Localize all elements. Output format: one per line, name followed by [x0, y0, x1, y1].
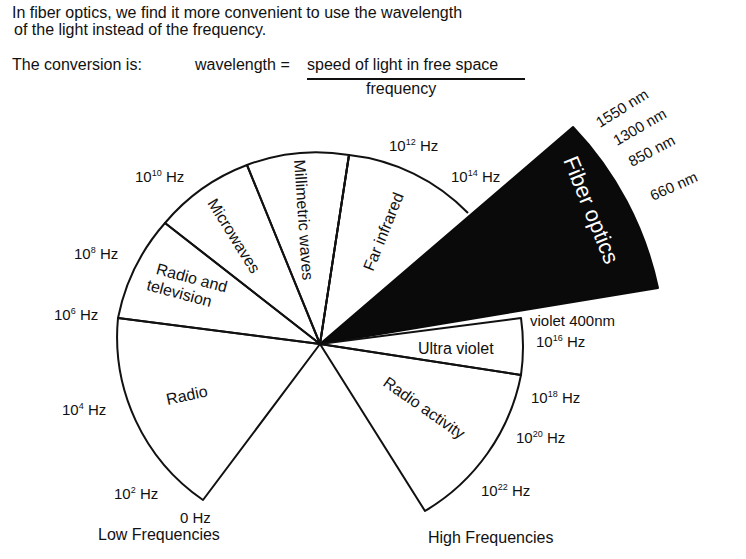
tick-10e4: 104 Hz [62, 401, 106, 418]
high-frequencies-label: High Frequencies [428, 529, 553, 546]
radio-sector [117, 318, 320, 500]
label-radioactivity: Radio activity [380, 374, 468, 443]
tick-10e10: 1010 Hz [135, 168, 184, 185]
low-frequencies-label: Low Frequencies [98, 526, 220, 543]
tick-10e2: 102 Hz [114, 485, 158, 502]
tick-10e20: 1020 Hz [516, 429, 565, 446]
tick-10e12: 1012 Hz [389, 137, 438, 154]
label-radio: Radio [165, 382, 210, 407]
violet-400nm: violet 400nm [530, 312, 615, 329]
tick-10e14: 1014 Hz [451, 168, 500, 185]
tick-10e8: 108 Hz [74, 245, 118, 262]
wavelength-660: 660 nm [647, 168, 700, 204]
label-millimetric: Millimetric waves [291, 159, 316, 281]
label-ultraviolet: Ultra violet [418, 340, 494, 357]
label-far-infrared: Far infrared [360, 190, 407, 273]
spectrum-fan-diagram: Radio Radio and television Microwaves Mi… [0, 0, 746, 559]
tick-10e18: 1018 Hz [531, 389, 580, 406]
tick-10e16: 1016 Hz [536, 333, 585, 350]
tick-10e22: 1022 Hz [481, 482, 530, 499]
label-microwaves: Microwaves [204, 196, 263, 277]
tick-0hz: 0 Hz [180, 509, 211, 526]
tick-10e6: 106 Hz [54, 306, 98, 323]
